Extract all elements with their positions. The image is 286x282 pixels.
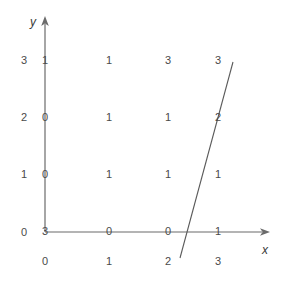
cell-x2-y3: 3 [165,55,171,66]
y-tick-label-3: 3 [21,55,27,66]
diagonal-line [180,62,233,258]
x-tick-label-3: 3 [215,256,221,267]
y-axis-label: y [30,16,36,28]
y-tick-label-2: 2 [21,112,27,123]
cell-x3-y3: 3 [215,55,221,66]
cell-x1-y1: 1 [106,169,112,180]
plot-canvas [0,0,286,282]
x-axis-label: x [262,244,268,256]
x-tick-label-0: 0 [42,256,48,267]
cell-x2-y2: 1 [165,112,171,123]
cell-x3-y1: 1 [215,169,221,180]
y-tick-label-1: 1 [21,169,27,180]
cell-x3-y0: 1 [215,226,221,237]
cell-x2-y0: 0 [165,226,171,237]
cell-x0-y0: 3 [42,226,48,237]
scatter-grid-plot: y x 3 2 1 0 0 1 2 3 1 1 3 3 0 1 1 2 0 1 … [0,0,286,282]
cell-x1-y2: 1 [106,112,112,123]
x-tick-label-2: 2 [165,256,171,267]
cell-x1-y3: 1 [106,55,112,66]
y-tick-label-0: 0 [21,227,27,238]
cell-x2-y1: 1 [165,169,171,180]
cell-x0-y2: 0 [42,112,48,123]
cell-x1-y0: 0 [106,226,112,237]
x-tick-label-1: 1 [106,256,112,267]
cell-x0-y1: 0 [42,169,48,180]
cell-x0-y3: 1 [42,55,48,66]
cell-x3-y2: 2 [215,112,221,123]
